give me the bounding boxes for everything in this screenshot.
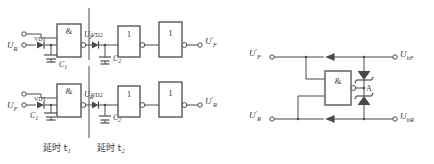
- terminal-ubr-output[interactable]: [393, 117, 397, 121]
- inverter-1-upper-label: 1: [127, 29, 132, 39]
- caption-delay-t1: 延时 t1: [43, 142, 71, 154]
- terminal-ubf-output[interactable]: [393, 55, 397, 59]
- terminal-uf-input[interactable]: [22, 103, 26, 107]
- bubble-inv2-lower: [182, 103, 187, 108]
- label-uf-input: UF: [7, 100, 19, 112]
- diode-vd1-lower: [37, 101, 44, 109]
- terminal-ufprime-input[interactable]: [270, 55, 274, 59]
- capacitor-c1-upper: [44, 55, 58, 62]
- inverter-1-lower-label: 1: [127, 89, 132, 99]
- circuit-diagram-svg: .w { stroke:#4a4a4a; stroke-width:1; fil…: [0, 0, 434, 164]
- label-ur-output: U′R: [205, 95, 217, 108]
- left-circuit: & UF VD2: [7, 8, 218, 154]
- diode-vd2-upper: [92, 41, 99, 48]
- diode-lower-horizontal: [325, 115, 334, 123]
- terminal-ur-input[interactable]: [22, 43, 26, 47]
- label-c1-upper: C1: [59, 60, 67, 70]
- label-vd2-upper: VD2: [91, 32, 103, 38]
- capacitor-c2-upper: [99, 57, 111, 64]
- label-node-a: A: [366, 84, 372, 93]
- terminal-lower-aux[interactable]: [22, 92, 26, 96]
- label-urprime-input: U′R: [249, 109, 261, 122]
- and-gate-lower-label: &: [65, 86, 72, 96]
- bubble-and-blocking: [351, 86, 356, 91]
- terminal-urprime-input[interactable]: [270, 117, 274, 121]
- label-ubr-output: UbR: [400, 111, 414, 123]
- bubble-inv2-upper: [182, 43, 187, 48]
- label-c1-lower: C1: [30, 111, 38, 121]
- row-upper: & UF VD2: [7, 22, 218, 70]
- bubble-inv1-lower: [140, 103, 145, 108]
- diode-upper-horizontal: [325, 53, 334, 61]
- label-ubf-output: UbF: [400, 49, 415, 61]
- label-vd1-lower: VD1: [34, 96, 46, 102]
- capacitor-c1-lower: [44, 113, 58, 120]
- label-vd2-lower: VD2: [91, 92, 103, 98]
- wire-tap-upper-to-gate: [306, 57, 325, 79]
- wire-tap-lower-to-gate: [298, 96, 325, 119]
- bubble-and-lower: [81, 103, 86, 108]
- label-vd1-upper: VD1: [34, 36, 46, 42]
- label-uf-output: U′F: [205, 35, 218, 48]
- diode-vd2-lower: [92, 101, 99, 108]
- bubble-and-upper: [81, 43, 86, 48]
- inverter-2-lower-label: 1: [168, 88, 173, 98]
- terminal-ur-output[interactable]: [198, 103, 202, 107]
- diode-vd1-upper: [37, 41, 44, 49]
- node-zener-bottom: [363, 118, 366, 121]
- inverter-2-upper-label: 1: [168, 28, 173, 38]
- terminal-upper-aux[interactable]: [22, 32, 26, 36]
- and-gate-blocking-label: &: [334, 76, 341, 86]
- label-ufprime-input: U′F: [249, 47, 262, 60]
- terminal-uf-output[interactable]: [198, 43, 202, 47]
- label-ur-input: UR: [7, 40, 18, 52]
- bubble-inv1-upper: [140, 43, 145, 48]
- right-circuit: & A U′F U′R: [249, 47, 415, 123]
- and-gate-upper-label: &: [65, 26, 72, 36]
- row-lower: C1 & UR VD2 C2: [7, 82, 217, 123]
- capacitor-c2-lower: [99, 116, 111, 123]
- caption-delay-t2: 延时 t2: [97, 142, 125, 154]
- diagram-root: .w { stroke:#4a4a4a; stroke-width:1; fil…: [0, 0, 434, 164]
